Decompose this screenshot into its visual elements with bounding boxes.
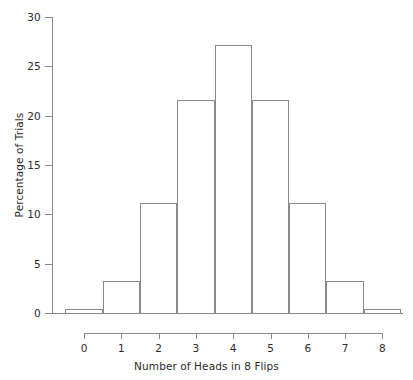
x-tick-label-4: 4 (218, 342, 248, 354)
y-axis-title: Percentage of Trials (13, 80, 25, 250)
y-axis-line (52, 17, 53, 314)
bar-5 (252, 100, 289, 314)
x-tick-mark-6 (308, 333, 309, 339)
y-tick-mark-30 (45, 17, 52, 18)
x-baseline (52, 313, 403, 314)
x-tick-mark-4 (233, 333, 234, 339)
y-tick-mark-5 (45, 264, 52, 265)
y-tick-mark-25 (45, 66, 52, 67)
x-tick-mark-1 (121, 333, 122, 339)
x-tick-label-0: 0 (69, 342, 99, 354)
x-tick-label-6: 6 (293, 342, 323, 354)
x-tick-mark-7 (345, 333, 346, 339)
x-tick-mark-8 (382, 333, 383, 339)
y-tick-label-25: 25 (1, 60, 41, 72)
y-tick-label-30: 30 (1, 11, 41, 23)
y-tick-label-5: 5 (1, 258, 41, 270)
y-tick-mark-10 (45, 214, 52, 215)
y-tick-0: 0 (0, 307, 41, 319)
bar-7 (326, 281, 363, 314)
x-tick-mark-0 (84, 333, 85, 339)
x-axis-title: Number of Heads in 8 Flips (0, 360, 413, 372)
bar-4 (215, 45, 252, 314)
x-tick-mark-5 (271, 333, 272, 339)
y-tick-5: 5 (0, 258, 41, 270)
y-tick-mark-15 (45, 165, 52, 166)
x-tick-label-8: 8 (367, 342, 397, 354)
y-tick-25: 25 (0, 60, 41, 72)
y-tick-label-0: 0 (1, 307, 41, 319)
bar-1 (103, 281, 140, 314)
x-tick-mark-3 (196, 333, 197, 339)
bar-3 (177, 100, 214, 314)
bar-2 (140, 203, 177, 315)
x-tick-label-7: 7 (330, 342, 360, 354)
x-tick-label-5: 5 (256, 342, 286, 354)
x-tick-label-2: 2 (144, 342, 174, 354)
x-tick-label-1: 1 (106, 342, 136, 354)
bar-6 (289, 203, 326, 315)
y-tick-mark-0 (45, 313, 52, 314)
x-tick-label-3: 3 (181, 342, 211, 354)
y-tick-mark-20 (45, 116, 52, 117)
histogram-figure: 30 25 20 15 10 5 0 Percentage of Trials (0, 0, 413, 380)
x-tick-mark-2 (159, 333, 160, 339)
y-tick-30: 30 (0, 11, 41, 23)
